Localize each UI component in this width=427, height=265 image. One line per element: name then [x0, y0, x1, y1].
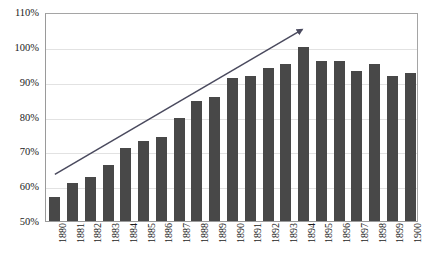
x-axis-tick-label-text: 1897 [360, 223, 370, 243]
x-axis-tick-label-text: 1886 [164, 223, 174, 243]
x-axis-tick-label: 1880 [58, 223, 68, 243]
y-axis-tick-label: 60% [20, 182, 39, 193]
bar [120, 148, 131, 221]
x-axis-tick-label: 1883 [111, 223, 121, 243]
x-axis-tick-label-text: 1882 [93, 223, 103, 243]
y-axis-tick-label: 100% [15, 43, 40, 54]
y-axis-tick-label: 80% [20, 112, 39, 123]
x-axis-tick-label-text: 1881 [76, 223, 86, 243]
bar [369, 64, 380, 221]
x-axis-tick-label-text: 1885 [147, 223, 157, 243]
bar [316, 61, 327, 221]
x-axis-tick-label: 1892 [271, 223, 281, 243]
bar [67, 183, 78, 221]
x-axis-tick-label: 1891 [253, 223, 263, 243]
x-axis-tick-label: 1896 [342, 223, 352, 243]
bar [227, 78, 238, 221]
x-axis-tick-label-text: 1884 [129, 223, 139, 243]
plot-area [45, 13, 418, 222]
x-axis-tick-label: 1886 [164, 223, 174, 243]
x-axis-tick-label-text: 1893 [289, 223, 299, 243]
y-axis-tick-label: 50% [20, 217, 39, 228]
bar [49, 197, 60, 221]
x-axis-tick-label: 1881 [76, 223, 86, 243]
bar-series [46, 14, 417, 221]
x-axis-tick-label: 1900 [413, 223, 423, 243]
x-axis-tick-labels: 1880188118821883188418851886188718881889… [45, 223, 418, 265]
y-axis-tick-label: 90% [20, 77, 39, 88]
x-axis-tick-label-text: 1891 [253, 223, 263, 243]
x-axis-tick-label-text: 1900 [413, 223, 423, 243]
bar [387, 76, 398, 221]
x-axis-tick-label: 1899 [395, 223, 405, 243]
bar [405, 73, 416, 221]
x-axis-tick-label-text: 1880 [58, 223, 68, 243]
x-axis-tick-label-text: 1892 [271, 223, 281, 243]
bar [245, 76, 256, 221]
bar [298, 47, 309, 221]
x-axis-tick-label: 1897 [360, 223, 370, 243]
x-axis-tick-label-text: 1883 [111, 223, 121, 243]
bar [174, 118, 185, 221]
bar-chart: 50%60%70%80%90%100%110% 1880188118821883… [0, 0, 427, 265]
x-axis-tick-label-text: 1896 [342, 223, 352, 243]
x-axis-tick-label-text: 1889 [218, 223, 228, 243]
bar [280, 64, 291, 221]
x-axis-tick-label: 1898 [378, 223, 388, 243]
x-axis-tick-label: 1894 [307, 223, 317, 243]
bar [103, 165, 114, 221]
bar [263, 68, 274, 221]
x-axis-tick-label: 1887 [182, 223, 192, 243]
bar [209, 97, 220, 221]
bar [191, 101, 202, 221]
x-axis-tick-label: 1885 [147, 223, 157, 243]
y-axis-tick-labels: 50%60%70%80%90%100%110% [0, 0, 44, 265]
x-axis-tick-label: 1889 [218, 223, 228, 243]
bar [138, 141, 149, 221]
bar [156, 137, 167, 221]
x-axis-tick-label: 1884 [129, 223, 139, 243]
y-axis-tick-label: 70% [20, 147, 39, 158]
y-axis-tick-label: 110% [15, 8, 39, 19]
bar [85, 177, 96, 221]
x-axis-tick-label-text: 1890 [236, 223, 246, 243]
x-axis-tick-label-text: 1899 [395, 223, 405, 243]
bar [351, 71, 362, 221]
x-axis-tick-label-text: 1898 [378, 223, 388, 243]
x-axis-tick-label: 1895 [324, 223, 334, 243]
bar [334, 61, 345, 221]
x-axis-tick-label: 1882 [93, 223, 103, 243]
x-axis-tick-label-text: 1894 [307, 223, 317, 243]
x-axis-tick-label-text: 1888 [200, 223, 210, 243]
x-axis-tick-label: 1890 [236, 223, 246, 243]
x-axis-tick-label-text: 1895 [324, 223, 334, 243]
x-axis-tick-label: 1888 [200, 223, 210, 243]
x-axis-tick-label-text: 1887 [182, 223, 192, 243]
x-axis-tick-label: 1893 [289, 223, 299, 243]
